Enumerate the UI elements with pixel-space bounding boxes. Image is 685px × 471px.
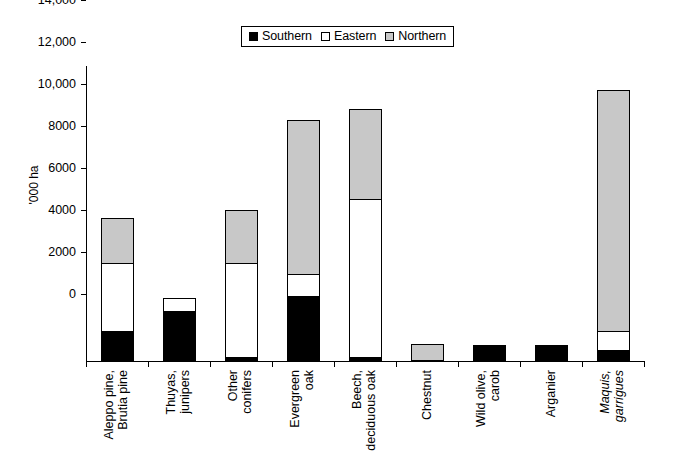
legend-swatch-eastern-icon xyxy=(321,32,330,41)
bar-segment-eastern xyxy=(349,199,382,358)
bar-segment-southern xyxy=(225,357,258,361)
bar-segment-eastern xyxy=(163,298,196,312)
bar-segment-northern xyxy=(597,90,630,332)
x-axis-category-label: Evergreenoak xyxy=(289,370,316,466)
x-tick-mark xyxy=(148,362,149,367)
bar-column xyxy=(473,345,506,361)
bar-column xyxy=(287,120,320,361)
y-tick-8000: 8000 xyxy=(18,126,86,127)
bar-segment-eastern xyxy=(225,263,258,358)
x-tick-mark xyxy=(520,362,521,367)
bar-segment-northern xyxy=(225,210,258,264)
legend-label-eastern: Eastern xyxy=(334,30,376,43)
y-tick-label: 14,000 xyxy=(14,0,76,6)
bar-column xyxy=(163,298,196,361)
bar-segment-eastern xyxy=(287,274,320,297)
legend-label-southern: Southern xyxy=(262,30,312,43)
x-axis-category-label: Aleppo pine,Brutia pine xyxy=(103,370,130,466)
bar-column xyxy=(349,109,382,361)
legend-swatch-southern-icon xyxy=(249,32,258,41)
bar-column xyxy=(411,344,444,361)
bar-segment-northern xyxy=(287,120,320,275)
bar-segment-southern xyxy=(163,311,196,361)
x-axis-category-label: Arganier xyxy=(545,370,559,466)
x-tick-mark xyxy=(334,362,335,367)
x-axis-category-label: Thuyas,junipers xyxy=(165,370,192,466)
x-axis-category-label: Otherconifers xyxy=(227,370,254,466)
x-tick-mark xyxy=(396,362,397,367)
x-tick-mark xyxy=(210,362,211,367)
bar-segment-southern xyxy=(349,357,382,361)
y-tick-14000: 14,000 xyxy=(18,0,86,1)
x-axis-category-label: Beech,deciduous oak xyxy=(351,370,378,466)
bar-segment-eastern xyxy=(597,331,630,351)
x-tick-mark xyxy=(644,362,645,367)
legend-swatch-northern-icon xyxy=(385,32,394,41)
x-axis-category-label: Wild olive,carob xyxy=(475,370,502,466)
chart-legend: SouthernEasternNorthern xyxy=(241,26,454,47)
x-axis-category-label: Maquis,garrigues xyxy=(599,370,626,466)
legend-entry-eastern: Eastern xyxy=(321,30,376,43)
y-tick-label: 8000 xyxy=(14,120,76,132)
bar-column xyxy=(535,345,568,361)
x-tick-mark xyxy=(86,362,87,367)
bar-segment-northern xyxy=(101,218,134,264)
bar-segment-southern xyxy=(535,345,568,361)
stacked-bar-chart: SouthernEasternNorthern '000 ha 02000400… xyxy=(0,0,685,471)
x-tick-mark xyxy=(272,362,273,367)
bar-segment-northern xyxy=(411,344,444,361)
y-tick-mark xyxy=(81,0,86,1)
bar-segment-southern xyxy=(473,345,506,361)
bar-segment-southern xyxy=(287,296,320,361)
bar-column xyxy=(101,218,134,361)
bar-column xyxy=(225,210,258,361)
bar-segment-northern xyxy=(349,109,382,200)
x-tick-mark xyxy=(458,362,459,367)
bar-segment-southern xyxy=(101,331,134,361)
legend-label-northern: Northern xyxy=(398,30,446,43)
y-tick-label: 12,000 xyxy=(14,36,76,48)
x-axis-category-label: Chestnut xyxy=(421,370,435,466)
y-tick-0: 0 xyxy=(18,294,86,295)
x-axis-line xyxy=(86,361,645,362)
y-tick-label: 0 xyxy=(14,288,76,300)
y-tick-label: 4000 xyxy=(14,204,76,216)
bar-column xyxy=(597,90,630,361)
y-tick-4000: 4000 xyxy=(18,210,86,211)
legend-entry-southern: Southern xyxy=(249,30,312,43)
y-tick-12000: 12,000 xyxy=(18,42,86,43)
y-tick-10000: 10,000 xyxy=(18,84,86,85)
y-tick-6000: 6000 xyxy=(18,168,86,169)
y-tick-label: 2000 xyxy=(14,246,76,258)
y-tick-2000: 2000 xyxy=(18,252,86,253)
bar-segment-eastern xyxy=(101,263,134,332)
x-tick-mark xyxy=(582,362,583,367)
plot-area xyxy=(86,67,644,361)
legend-entry-northern: Northern xyxy=(385,30,446,43)
y-axis-ticks: 0200040006000800010,00012,00014,000 xyxy=(18,0,86,294)
y-tick-mark xyxy=(81,42,86,43)
bar-segment-southern xyxy=(597,350,630,361)
y-tick-label: 6000 xyxy=(14,162,76,174)
y-tick-label: 10,000 xyxy=(14,78,76,90)
